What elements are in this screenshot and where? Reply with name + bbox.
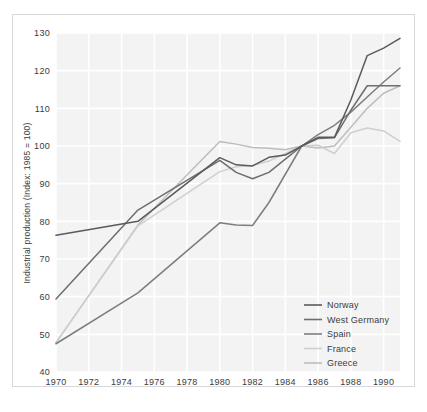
x-tick-label: 1984 xyxy=(275,377,296,387)
x-tick-label: 1986 xyxy=(307,377,328,387)
legend-label-spain: Spain xyxy=(327,329,351,339)
x-tick-label: 1982 xyxy=(242,377,263,387)
chart-figure: 405060708090100110120130 197019721974197… xyxy=(0,0,427,412)
line-chart: 405060708090100110120130 197019721974197… xyxy=(0,0,427,412)
legend-label-france: France xyxy=(327,344,356,354)
x-tick-label: 1988 xyxy=(340,377,361,387)
y-tick-label: 90 xyxy=(39,179,50,189)
y-tick-label: 100 xyxy=(34,141,50,151)
y-tick-label: 110 xyxy=(35,104,50,114)
x-tick-label: 1976 xyxy=(144,377,165,387)
x-tick-label: 1970 xyxy=(45,377,66,387)
legend-label-norway: Norway xyxy=(327,300,359,310)
y-axis-ticks: 405060708090100110120130 xyxy=(34,28,50,377)
y-tick-label: 130 xyxy=(34,28,50,38)
x-tick-label: 1974 xyxy=(111,377,132,387)
legend-label-west-germany: West Germany xyxy=(327,315,390,325)
y-axis-label-group: Industrial production (Index: 1985 = 100… xyxy=(22,122,32,283)
y-axis-label: Industrial production (Index: 1985 = 100… xyxy=(22,122,32,283)
x-tick-label: 1980 xyxy=(209,377,230,387)
y-tick-label: 50 xyxy=(39,330,50,340)
y-tick-label: 120 xyxy=(34,66,50,76)
y-tick-label: 70 xyxy=(39,254,50,264)
x-tick-label: 1972 xyxy=(78,377,99,387)
y-tick-label: 40 xyxy=(39,367,50,377)
x-tick-label: 1990 xyxy=(373,377,394,387)
y-tick-label: 80 xyxy=(39,217,50,227)
legend-label-greece: Greece xyxy=(327,358,358,368)
x-axis-ticks: 1970197219741976197819801982198419861988… xyxy=(45,377,394,387)
x-tick-label: 1978 xyxy=(176,377,197,387)
y-tick-label: 60 xyxy=(39,292,50,302)
